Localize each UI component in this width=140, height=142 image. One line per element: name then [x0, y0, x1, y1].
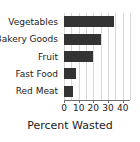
bar-row: [64, 13, 130, 30]
category-label: Fast Food: [0, 65, 61, 82]
bar: [64, 34, 101, 45]
bar-row: [64, 83, 130, 100]
x-axis-tick-label: 40: [117, 103, 128, 114]
bar: [64, 51, 93, 62]
category-axis-labels: Vegetables Bakery Goods Fruit Fast Food …: [0, 13, 61, 100]
bar: [64, 86, 73, 97]
x-axis-tick-label: 10: [73, 103, 84, 114]
plot-area: [64, 13, 130, 100]
bar-series: [64, 13, 130, 100]
bar: [64, 68, 76, 79]
category-label: Red Meat: [0, 83, 61, 100]
x-axis-tick-label: 30: [102, 103, 113, 114]
category-label: Vegetables: [0, 13, 61, 30]
category-label: Bakery Goods: [0, 30, 61, 47]
category-label: Fruit: [0, 48, 61, 65]
x-axis-tick-label: 0: [61, 103, 67, 114]
x-axis-tick-labels: 010203040: [0, 103, 140, 115]
bar: [64, 16, 114, 27]
bar-chart: Vegetables Bakery Goods Fruit Fast Food …: [0, 0, 140, 142]
x-axis-tick-label: 20: [88, 103, 99, 114]
bar-row: [64, 65, 130, 82]
x-axis-title: Percent Wasted: [0, 119, 140, 132]
bar-row: [64, 30, 130, 47]
bar-row: [64, 48, 130, 65]
gridline: [130, 13, 131, 100]
